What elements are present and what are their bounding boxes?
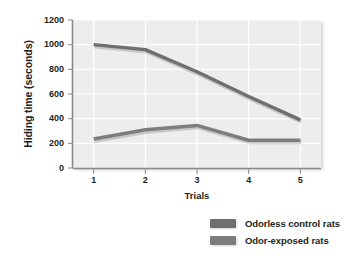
x-axis-title: Trials [73,190,321,201]
legend-swatch [210,219,236,228]
y-tick-label: 200 [30,139,64,148]
legend-label: Odorless control rats [245,218,340,229]
x-tick-label: 4 [237,175,261,185]
series-line-shadow [95,46,302,121]
legend-item: Odorless control rats [210,216,355,231]
y-tick-label: 1200 [30,16,64,25]
legend-label: Odor-exposed rats [245,235,329,246]
y-tick-label: 0 [30,164,64,173]
y-tick-label: 800 [30,65,64,74]
plot-area [73,20,321,168]
y-tick-label: 600 [30,90,64,99]
chart-legend: Odorless control ratsOdor-exposed rats [210,216,355,250]
plot-canvas [73,20,321,168]
x-tick-label: 2 [133,175,157,185]
line-chart-figure: Hiding time (seconds) 120010008006004002… [0,0,359,261]
x-tick-label: 3 [185,175,209,185]
y-tick-label: 1000 [30,40,64,49]
x-tick-label: 1 [82,175,106,185]
legend-swatch [210,236,236,245]
y-tick-label: 400 [30,114,64,123]
x-tick-label: 5 [288,175,312,185]
x-axis-tick-labels: 12345 [73,175,321,189]
y-axis-tick-labels: 120010008006004002000 [28,0,64,261]
legend-item: Odor-exposed rats [210,233,355,248]
